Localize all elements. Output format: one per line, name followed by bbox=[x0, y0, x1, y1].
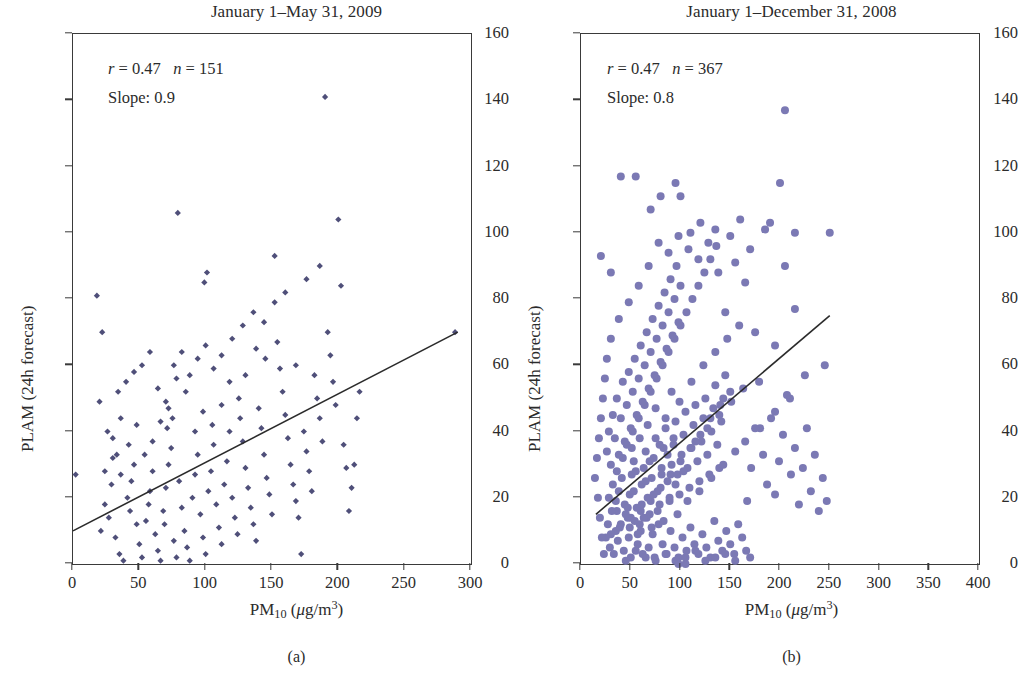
scatter-point bbox=[650, 490, 658, 498]
y-tick-mark-b-1 bbox=[573, 496, 580, 497]
y-tick-mark-a-7 bbox=[65, 99, 72, 100]
scatter-point bbox=[664, 477, 672, 485]
scatter-point bbox=[657, 358, 665, 366]
scatter-point bbox=[601, 375, 609, 383]
scatter-point bbox=[187, 372, 193, 378]
scatter-point bbox=[689, 421, 697, 429]
scatter-point bbox=[766, 219, 774, 227]
scatter-point bbox=[714, 269, 722, 277]
scatter-point bbox=[681, 560, 689, 568]
scatter-point bbox=[607, 461, 615, 469]
scatter-point bbox=[711, 348, 719, 356]
scatter-point bbox=[722, 527, 730, 535]
y-tick-label-a-2: 40 bbox=[448, 421, 509, 441]
scatter-point bbox=[314, 395, 320, 401]
data-points-b bbox=[591, 106, 834, 568]
scatter-point bbox=[819, 474, 827, 482]
scatter-point bbox=[303, 448, 309, 454]
scatter-point bbox=[726, 232, 734, 240]
scatter-point bbox=[160, 508, 166, 514]
x-tick-mark-b-5 bbox=[828, 563, 829, 570]
scatter-point bbox=[625, 298, 633, 306]
scatter-point bbox=[620, 547, 628, 555]
scatter-point bbox=[821, 361, 829, 369]
scatter-point bbox=[319, 438, 325, 444]
scatter-point bbox=[695, 487, 703, 495]
scatter-point bbox=[738, 534, 746, 542]
scatter-point bbox=[632, 467, 640, 475]
scatter-point bbox=[102, 468, 108, 474]
scatter-point bbox=[775, 457, 783, 465]
y-tick-label-a-8: 160 bbox=[448, 23, 509, 43]
scatter-point bbox=[322, 94, 328, 100]
scatter-point bbox=[232, 515, 238, 521]
y-tick-label-b-2: 40 bbox=[958, 421, 1018, 441]
scatter-point bbox=[632, 547, 640, 555]
scatter-point bbox=[181, 528, 187, 534]
scatter-point bbox=[693, 457, 701, 465]
scatter-point bbox=[683, 497, 691, 505]
scatter-point bbox=[211, 442, 217, 448]
scatter-point bbox=[646, 457, 654, 465]
scatter-point bbox=[677, 282, 685, 290]
scatter-point bbox=[598, 534, 606, 542]
scatter-point bbox=[613, 394, 621, 402]
scatter-point bbox=[317, 415, 323, 421]
scatter-point bbox=[282, 289, 288, 295]
x-tick-mark-b-3 bbox=[729, 563, 730, 570]
x-tick-mark-a-0 bbox=[71, 563, 72, 570]
scatter-point bbox=[131, 462, 137, 468]
scatter-point bbox=[704, 239, 712, 247]
y-tick-label-b-6: 120 bbox=[958, 156, 1018, 176]
scatter-point bbox=[189, 495, 195, 501]
n-symbol-b: n bbox=[672, 59, 680, 78]
x-tick-label-a-1: 50 bbox=[130, 573, 147, 593]
scatter-point bbox=[604, 520, 612, 528]
plot-area-b bbox=[580, 33, 980, 565]
scatter-point bbox=[726, 540, 734, 548]
y-tick-mark-b-5 bbox=[573, 231, 580, 232]
scatter-point bbox=[691, 401, 699, 409]
scatter-point bbox=[209, 422, 215, 428]
scatter-point bbox=[663, 345, 671, 353]
scatter-point bbox=[703, 424, 711, 432]
scatter-point bbox=[139, 554, 145, 560]
scatter-canvas-b bbox=[581, 34, 979, 564]
scatter-point bbox=[665, 308, 673, 316]
scatter-point bbox=[169, 415, 175, 421]
scatter-point bbox=[335, 216, 341, 222]
scatter-point bbox=[143, 518, 149, 524]
scatter-point bbox=[638, 500, 646, 508]
scatter-point bbox=[701, 394, 709, 402]
scatter-point bbox=[203, 342, 209, 348]
annotation-slope-a: Slope: 0.9 bbox=[108, 88, 175, 108]
scatter-point bbox=[211, 365, 217, 371]
scatter-point bbox=[229, 495, 235, 501]
annotation-slope-b: Slope: 0.8 bbox=[607, 88, 674, 108]
scatter-point bbox=[134, 521, 140, 527]
y-tick-label-b-1: 20 bbox=[958, 487, 1018, 507]
scatter-point bbox=[242, 465, 248, 471]
scatter-point bbox=[266, 491, 272, 497]
scatter-point bbox=[237, 415, 243, 421]
x-axis-title-a: PM10 (μg/m3) bbox=[0, 598, 551, 622]
y-tick-mark-a-3 bbox=[65, 364, 72, 365]
scatter-point bbox=[661, 288, 669, 296]
y-tick-mark-a-5 bbox=[65, 231, 72, 232]
scatter-point bbox=[600, 550, 608, 558]
scatter-point bbox=[787, 471, 795, 479]
scatter-point bbox=[711, 381, 719, 389]
scatter-point bbox=[685, 484, 693, 492]
y-tick-label-a-5: 100 bbox=[448, 222, 509, 242]
scatter-point bbox=[171, 538, 177, 544]
y-tick-label-b-0: 0 bbox=[958, 553, 1018, 573]
scatter-point bbox=[670, 434, 678, 442]
scatter-point bbox=[672, 418, 680, 426]
scatter-point bbox=[687, 378, 695, 386]
scatter-point bbox=[274, 339, 280, 345]
scatter-point bbox=[234, 531, 240, 537]
y-axis-title-b: PLAM (24h forecast) bbox=[525, 306, 545, 452]
scatter-point bbox=[700, 269, 708, 277]
scatter-point bbox=[161, 521, 167, 527]
x-tick-mark-b-7 bbox=[928, 563, 929, 570]
